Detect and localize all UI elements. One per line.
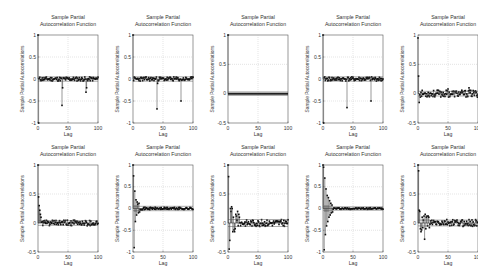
x-axis-label: Lag	[349, 260, 358, 266]
y-axis-label: Sample Partial Autocorrelations	[115, 174, 120, 242]
chart-title: Autocorrelation Function	[325, 21, 381, 27]
x-tick-label: 0	[322, 125, 325, 131]
pacf-panel-row1-col3: Sample PartialAutocorrelation Function-0…	[208, 2, 290, 132]
y-tick-label: 0.5	[219, 191, 226, 197]
y-tick-label: -0.5	[122, 98, 131, 104]
pacf-panel-row2-col5: Sample PartialAutocorrelation Function-0…	[398, 132, 478, 262]
y-tick-label: 0.5	[314, 183, 321, 189]
y-tick-label: -0.5	[27, 249, 36, 255]
chart-title: Sample Partial	[51, 14, 85, 20]
y-tick-label: -1	[317, 249, 322, 255]
y-tick-label: 1	[128, 162, 131, 168]
x-tick-label: 50	[350, 254, 356, 260]
y-tick-label: 0.5	[29, 54, 36, 60]
x-tick-label: 0	[417, 254, 420, 260]
chart-title: Sample Partial	[146, 144, 180, 150]
chart-title: Autocorrelation Function	[40, 151, 96, 157]
y-tick-label: 1	[223, 32, 226, 38]
y-tick-label: 0.5	[124, 54, 131, 60]
y-tick-label: -0.5	[217, 120, 226, 126]
x-tick-label: 50	[65, 254, 71, 260]
y-tick-label: 0.5	[29, 191, 36, 197]
y-tick-label: 1	[33, 32, 36, 38]
y-tick-label: -0.5	[312, 98, 321, 104]
y-tick-label: -0.5	[122, 227, 131, 233]
y-tick-label: 0	[33, 76, 36, 82]
y-tick-label: 1	[33, 162, 36, 168]
x-tick-label: 100	[94, 125, 103, 131]
y-tick-label: -0.5	[407, 249, 416, 255]
y-tick-label: 0	[318, 76, 321, 82]
pacf-panel-row1-col4: Sample PartialAutocorrelation Function-1…	[303, 2, 385, 132]
x-tick-label: 50	[65, 125, 71, 131]
y-tick-label: 0.5	[219, 61, 226, 67]
y-tick-label: 0	[128, 76, 131, 82]
y-tick-label: 0.5	[409, 61, 416, 67]
chart-title: Autocorrelation Function	[230, 151, 286, 157]
y-tick-label: 0	[128, 205, 131, 211]
x-tick-label: 100	[474, 254, 478, 260]
y-tick-label: 1	[223, 162, 226, 168]
y-axis-label: Sample Partial Autocorrelations	[210, 174, 215, 242]
x-tick-label: 0	[227, 125, 230, 131]
y-tick-label: -0.5	[407, 120, 416, 126]
y-tick-label: 0	[413, 220, 416, 226]
x-tick-label: 50	[445, 125, 451, 131]
chart-title: Sample Partial	[431, 144, 465, 150]
y-tick-label: -0.5	[312, 227, 321, 233]
y-tick-label: -1	[127, 120, 132, 126]
y-axis-label: Sample Partial Autocorrelations	[210, 45, 215, 113]
x-tick-label: 50	[445, 254, 451, 260]
y-tick-label: 0	[223, 90, 226, 96]
y-tick-label: -1	[127, 249, 132, 255]
chart-title: Sample Partial	[336, 14, 370, 20]
x-tick-label: 50	[350, 125, 356, 131]
x-tick-label: 50	[160, 125, 166, 131]
y-axis-label: Sample Partial Autocorrelations	[400, 45, 405, 113]
pacf-panel-row2-col2: Sample PartialAutocorrelation Function-1…	[113, 132, 195, 262]
y-tick-label: 0	[318, 205, 321, 211]
pacf-panel-row2-col3: Sample PartialAutocorrelation Function-0…	[208, 132, 290, 262]
chart-title: Autocorrelation Function	[135, 21, 191, 27]
chart-title: Sample Partial	[336, 144, 370, 150]
y-axis-label: Sample Partial Autocorrelations	[305, 174, 310, 242]
x-tick-label: 100	[474, 125, 478, 131]
y-axis-label: Sample Partial Autocorrelations	[115, 45, 120, 113]
chart-title: Autocorrelation Function	[325, 151, 381, 157]
chart-title: Sample Partial	[51, 144, 85, 150]
x-tick-label: 100	[189, 125, 198, 131]
y-tick-label: -0.5	[27, 98, 36, 104]
y-tick-label: 1	[318, 32, 321, 38]
y-tick-label: 0	[223, 220, 226, 226]
y-axis-label: Sample Partial Autocorrelations	[400, 174, 405, 242]
y-tick-label: 1	[318, 162, 321, 168]
x-axis-label: Lag	[444, 260, 453, 266]
x-tick-label: 100	[379, 254, 388, 260]
y-tick-label: 0.5	[124, 183, 131, 189]
x-tick-label: 50	[255, 254, 261, 260]
chart-title: Autocorrelation Function	[135, 151, 191, 157]
x-tick-label: 100	[379, 125, 388, 131]
y-tick-label: -1	[32, 120, 37, 126]
chart-title: Autocorrelation Function	[230, 21, 286, 27]
y-tick-label: 1	[413, 32, 416, 38]
x-tick-label: 0	[227, 254, 230, 260]
chart-title: Sample Partial	[241, 14, 275, 20]
chart-title: Autocorrelation Function	[40, 21, 96, 27]
y-tick-label: -0.5	[217, 249, 226, 255]
pacf-panel-row2-col4: Sample PartialAutocorrelation Function-1…	[303, 132, 385, 262]
x-tick-label: 50	[255, 125, 261, 131]
chart-title: Autocorrelation Function	[420, 21, 476, 27]
y-axis-label: Sample Partial Autocorrelations	[305, 45, 310, 113]
x-tick-label: 100	[94, 254, 103, 260]
chart-title: Autocorrelation Function	[420, 151, 476, 157]
pacf-panel-row1-col2: Sample PartialAutocorrelation Function-1…	[113, 2, 195, 132]
x-axis-label: Lag	[64, 260, 73, 266]
y-tick-label: 0	[413, 90, 416, 96]
x-tick-label: 50	[160, 254, 166, 260]
y-tick-label: 0	[33, 220, 36, 226]
x-tick-label: 100	[284, 125, 293, 131]
y-axis-label: Sample Partial Autocorrelations	[20, 174, 25, 242]
pacf-panel-row2-col1: Sample PartialAutocorrelation Function-0…	[18, 132, 100, 262]
x-tick-label: 100	[284, 254, 293, 260]
